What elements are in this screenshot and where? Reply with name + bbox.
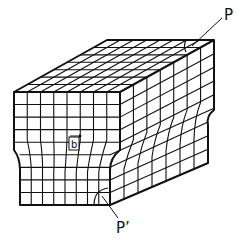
- dislocation-arc-bottom: [94, 188, 108, 205]
- dislocation-arc-top: [185, 40, 187, 52]
- lattice-diagram: b P P’: [0, 0, 249, 240]
- burgers-vector-label: b: [71, 139, 77, 150]
- label-p-prime: P’: [116, 219, 130, 237]
- leader-line-p: [192, 18, 222, 46]
- label-p: P: [224, 6, 233, 24]
